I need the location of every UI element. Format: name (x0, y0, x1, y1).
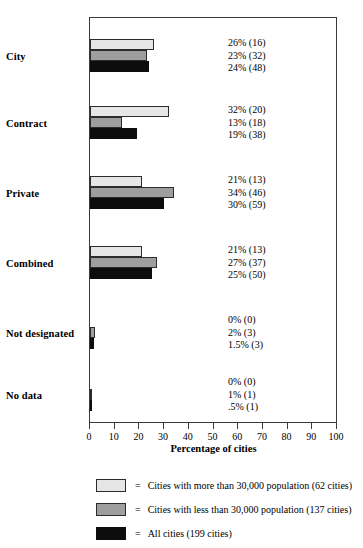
x-tick (237, 423, 238, 429)
bar (90, 257, 157, 268)
bar (90, 400, 92, 411)
x-axis-title: Percentage of cities (89, 443, 338, 454)
value-label: 32% (20) (228, 104, 324, 117)
bar (90, 187, 174, 198)
value-label: 34% (46) (228, 187, 324, 200)
value-label-group: 21% (13)27% (37)25% (50) (228, 244, 324, 282)
bar (90, 128, 137, 139)
value-label: 19% (38) (228, 129, 324, 142)
category-label: Combined (6, 258, 86, 269)
x-tick (311, 423, 312, 429)
value-label: .5% (1) (228, 401, 324, 414)
value-label: 24% (48) (228, 62, 324, 75)
legend-label: Cities with more than 30,000 population … (148, 480, 352, 491)
category-label: City (6, 51, 86, 62)
legend-label: All cities (199 cities) (148, 528, 232, 539)
category-label: Private (6, 188, 86, 199)
x-tick (163, 423, 164, 429)
x-tick (262, 423, 263, 429)
x-tick (188, 423, 189, 429)
value-label: 27% (37) (228, 257, 324, 270)
value-label-group: 26% (16)23% (32)24% (48) (228, 37, 324, 75)
x-axis: 0102030405060708090100 (89, 423, 338, 424)
legend-row: =All cities (199 cities) (96, 521, 356, 545)
value-label-group: 32% (20)13% (18)19% (38) (228, 104, 324, 142)
bar (90, 389, 92, 400)
legend-equals-sign: = (135, 504, 141, 515)
bar (90, 327, 95, 338)
legend-equals-sign: = (135, 480, 141, 491)
bar (90, 246, 142, 257)
x-tick (114, 423, 115, 429)
bars-layer (90, 18, 337, 423)
bar (90, 106, 169, 117)
bar (90, 198, 164, 209)
value-label: 26% (16) (228, 37, 324, 50)
value-label-group: 21% (13)34% (46)30% (59) (228, 174, 324, 212)
legend-swatch (96, 479, 126, 492)
x-tick-label: 100 (321, 431, 351, 442)
legend-swatch (96, 527, 126, 540)
legend-row: =Cities with less than 30,000 population… (96, 497, 356, 521)
bar (90, 61, 149, 72)
value-label: 25% (50) (228, 269, 324, 282)
value-label: 30% (59) (228, 199, 324, 212)
grouped-bar-chart: CityContractPrivateCombinedNot designate… (0, 0, 363, 548)
value-label: 23% (32) (228, 50, 324, 63)
bar (90, 176, 142, 187)
bar (90, 39, 154, 50)
x-tick (89, 423, 90, 429)
value-label: 21% (13) (228, 174, 324, 187)
value-label: 0% (0) (228, 314, 324, 327)
legend-label: Cities with less than 30,000 population … (148, 504, 352, 515)
x-tick (138, 423, 139, 429)
value-label: 1.5% (3) (228, 339, 324, 352)
value-label: 1% (1) (228, 389, 324, 402)
bar (90, 268, 152, 279)
category-label: No data (6, 390, 86, 401)
x-tick (213, 423, 214, 429)
value-label: 13% (18) (228, 117, 324, 130)
value-label: 21% (13) (228, 244, 324, 257)
legend-equals-sign: = (135, 528, 141, 539)
bar (90, 338, 94, 349)
bar (90, 117, 122, 128)
bar (90, 50, 147, 61)
value-label: 2% (3) (228, 327, 324, 340)
category-label: Not designated (6, 328, 86, 339)
value-label-group: 0% (0)2% (3)1.5% (3) (228, 314, 324, 352)
value-label: 0% (0) (228, 376, 324, 389)
chart-legend: =Cities with more than 30,000 population… (96, 473, 356, 545)
x-tick (287, 423, 288, 429)
category-label: Contract (6, 118, 86, 129)
legend-swatch (96, 503, 126, 516)
legend-row: =Cities with more than 30,000 population… (96, 473, 356, 497)
value-label-group: 0% (0)1% (1).5% (1) (228, 376, 324, 414)
x-tick (336, 423, 337, 429)
